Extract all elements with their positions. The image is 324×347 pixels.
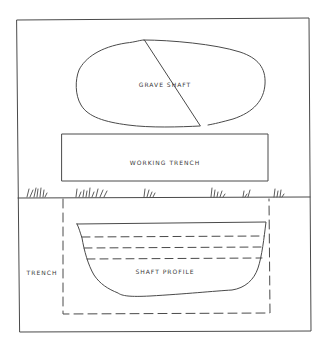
grass-tuft-6 <box>274 189 284 197</box>
trench-dashed-outline <box>63 199 270 314</box>
shaft-profile-label: SHAFT PROFILE <box>135 269 194 275</box>
fill-layer-line-1 <box>82 236 264 237</box>
trench-label: TRENCH <box>27 270 58 276</box>
grass-tuft-4 <box>211 188 225 197</box>
diagram-canvas: GRAVE SHAFT WORKING TRENCH TRENCH SHAFT … <box>0 0 324 347</box>
grass-tuft-2 <box>76 188 107 197</box>
working-trench-label: WORKING TRENCH <box>130 160 200 166</box>
outer-frame <box>17 18 311 332</box>
ground-line <box>18 197 310 198</box>
grass-tuft-1 <box>27 188 47 197</box>
shaft-fill-layers <box>82 236 264 259</box>
diagram-svg <box>0 0 324 347</box>
fill-layer-line-2 <box>84 247 263 248</box>
grass-tuft-5 <box>243 190 250 197</box>
fill-layer-line-3 <box>87 258 262 259</box>
grass-tuft-3 <box>144 189 155 197</box>
grass-tufts <box>27 188 284 197</box>
grave-shaft-label: GRAVE SHAFT <box>139 82 192 88</box>
working-trench-box <box>62 134 268 181</box>
